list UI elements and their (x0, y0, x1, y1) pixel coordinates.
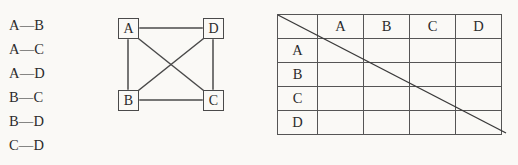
table-row: B (278, 63, 502, 87)
matrix-cell[interactable] (410, 39, 456, 63)
matrix-cell[interactable] (456, 63, 502, 87)
graph-node-c: C (203, 90, 224, 111)
matrix-row-header-c: C (278, 87, 318, 111)
edge-list-item: C—D (9, 133, 104, 157)
edge-list-item: B—C (9, 85, 104, 109)
matrix-row-header-d: D (278, 111, 318, 135)
matrix-col-header-a: A (318, 15, 364, 39)
edge-list-item: B—D (9, 109, 104, 133)
graph-node-b: B (118, 90, 139, 111)
cut-off-text-strip: · · · · · · · · · · · · · · · · · · · · … (0, 0, 518, 9)
matrix-cell[interactable] (364, 111, 410, 135)
matrix-cell[interactable] (318, 63, 364, 87)
graph-node-a: A (118, 18, 139, 39)
table-row: A (278, 39, 502, 63)
edge-list-item: A—D (9, 61, 104, 85)
matrix-cell[interactable] (410, 111, 456, 135)
matrix-cell[interactable] (456, 39, 502, 63)
matrix-col-header-b: B (364, 15, 410, 39)
matrix-row-header-b: B (278, 63, 318, 87)
matrix-cell[interactable] (364, 87, 410, 111)
matrix-cell[interactable] (456, 111, 502, 135)
adjacency-matrix-table: A B C D A B C (277, 14, 502, 135)
matrix-col-header-d: D (456, 15, 502, 39)
matrix-col-header-c: C (410, 15, 456, 39)
matrix-cell[interactable] (456, 87, 502, 111)
matrix-cell[interactable] (364, 63, 410, 87)
worksheet-page: · · · · · · · · · · · · · · · · · · · · … (0, 0, 518, 165)
edge-list: A—B A—C A—D B—C B—D C—D (9, 13, 104, 157)
edge-list-item: A—C (9, 37, 104, 61)
graph-node-d: D (203, 18, 224, 39)
table-row: C (278, 87, 502, 111)
matrix-cell[interactable] (318, 39, 364, 63)
cut-off-text: · · · · · · · · · · · · · · · · · · · · … (6, 0, 234, 7)
matrix-row-header-a: A (278, 39, 318, 63)
matrix-cell[interactable] (410, 87, 456, 111)
matrix-cell[interactable] (410, 63, 456, 87)
matrix-cell[interactable] (364, 39, 410, 63)
graph-diagram: A D B C (112, 12, 237, 122)
edge-list-item: A—B (9, 13, 104, 37)
adjacency-matrix: A B C D A B C (277, 14, 502, 135)
table-row: D (278, 111, 502, 135)
matrix-cell[interactable] (318, 111, 364, 135)
matrix-corner-cell (278, 15, 318, 39)
table-row-header: A B C D (278, 15, 502, 39)
matrix-cell[interactable] (318, 87, 364, 111)
